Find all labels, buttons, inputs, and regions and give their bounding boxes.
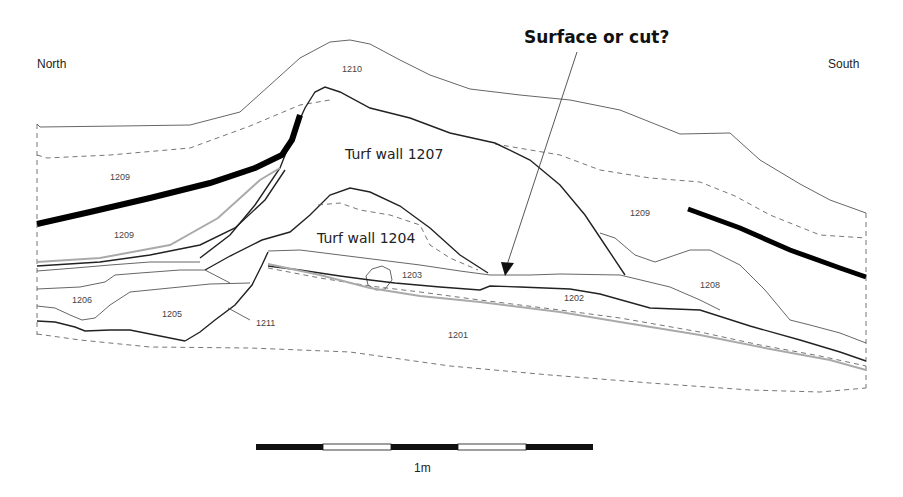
heavy-band-north <box>37 115 300 224</box>
section-drawing <box>0 0 903 497</box>
context-1209-label-south: 1209 <box>630 208 650 218</box>
annotation-arrow-line <box>507 52 577 265</box>
context-1209-label-lower: 1209 <box>114 230 134 240</box>
turf-wall-1204-label: Turf wall 1204 <box>317 230 415 246</box>
scale-bar <box>256 444 593 450</box>
ground-surface-line <box>37 40 866 213</box>
context-1201-label: 1201 <box>448 330 468 340</box>
annotation-question: Surface or cut? <box>524 27 669 47</box>
layer-1206-outline <box>37 283 250 320</box>
context-1206-label: 1206 <box>72 295 92 305</box>
layer-1209-upper-dash-south <box>495 144 866 238</box>
context-1210-label: 1210 <box>342 64 362 74</box>
context-1209-label-upper: 1209 <box>110 172 130 182</box>
layer-1201-top-grey <box>268 264 866 370</box>
annotation-arrowhead <box>501 262 514 276</box>
context-1202-label: 1202 <box>564 293 584 303</box>
turf-wall-1207-outline <box>200 87 625 275</box>
layer-upper-1205 <box>37 270 230 289</box>
context-1208-label: 1208 <box>700 280 720 290</box>
south-label: South <box>828 57 859 71</box>
heavy-band-south <box>688 209 866 277</box>
north-label: North <box>37 57 66 71</box>
layer-1206-top <box>37 262 200 271</box>
layer-1202-dash <box>268 268 866 366</box>
context-1211-label: 1211 <box>256 318 275 328</box>
context-1203-label: 1203 <box>402 270 422 280</box>
layer-1205-base <box>37 321 185 341</box>
layer-1208-outline <box>600 233 866 343</box>
cut-1211-leader <box>228 308 250 320</box>
scale-bar-label: 1m <box>414 461 431 475</box>
turf-wall-1207-label: Turf wall 1207 <box>345 146 443 162</box>
context-1205-label: 1205 <box>162 309 182 319</box>
